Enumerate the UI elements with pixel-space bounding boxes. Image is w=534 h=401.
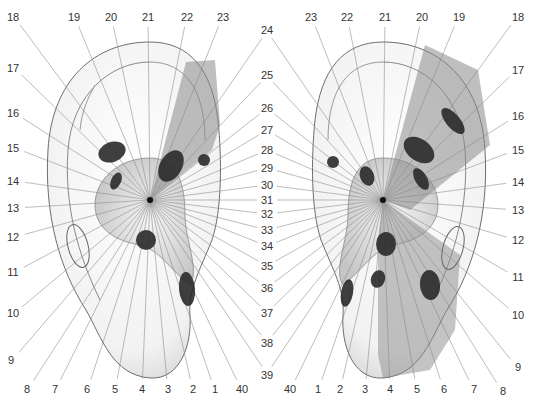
- right_ear-zone-label-1: 1: [315, 383, 321, 395]
- left_ear-zone-label-11: 11: [7, 266, 18, 278]
- right-acupoint-6: [376, 232, 396, 256]
- left_ear-zone-label-3: 3: [165, 383, 171, 395]
- left_ear-zone-label-15: 15: [7, 142, 19, 154]
- left_ear-zone-label-13: 13: [7, 202, 19, 214]
- left_ear-zone-label-7: 7: [52, 383, 58, 395]
- center-zone-label-32: 32: [261, 208, 273, 220]
- right_ear-zone-label-23: 23: [305, 11, 317, 23]
- right_ear-zone-label-12: 12: [512, 234, 524, 246]
- right_ear-zone-label-7: 7: [471, 383, 477, 395]
- right_ear-zone-label-17: 17: [512, 64, 524, 76]
- right-ear: [313, 42, 490, 378]
- left_ear-zone-label-21: 21: [142, 11, 154, 23]
- left-ear: [47, 42, 220, 378]
- left_ear-zone-label-22: 22: [181, 11, 193, 23]
- right_ear-zone-label-18: 18: [512, 11, 524, 23]
- left_ear-zone-label-19: 19: [68, 11, 80, 23]
- left_ear-zone-label-10: 10: [7, 307, 19, 319]
- center-zone-label-27: 27: [261, 124, 273, 136]
- left_ear-zone-label-23: 23: [217, 11, 229, 23]
- center-zone-label-36: 36: [261, 282, 273, 294]
- left_ear-zone-label-1: 1: [212, 383, 218, 395]
- right_ear-zone-label-11: 11: [512, 271, 523, 283]
- center-zone-label-25: 25: [261, 69, 273, 81]
- center-zone-label-29: 29: [261, 162, 273, 174]
- center-zone-label-31: 31: [261, 194, 273, 206]
- right_ear-zone-label-40: 40: [284, 383, 296, 395]
- right_ear-zone-label-20: 20: [416, 11, 428, 23]
- ear-zone-diagram: 1817161514131211109192021222387654321402…: [0, 0, 534, 401]
- right_ear-zone-label-13: 13: [512, 204, 524, 216]
- center-zone-label-30: 30: [261, 179, 273, 191]
- right_ear-zone-label-2: 2: [337, 383, 343, 395]
- left-acupoint-5: [136, 230, 156, 250]
- center-zone-label-39: 39: [261, 369, 273, 381]
- center-zone-label-26: 26: [261, 102, 273, 114]
- left_ear-zone-label-6: 6: [84, 383, 90, 395]
- left_ear-zone-label-40: 40: [236, 383, 248, 395]
- left-acupoint-4: [198, 154, 210, 166]
- right_ear-zone-label-6: 6: [441, 383, 447, 395]
- center-zone-label-38: 38: [261, 337, 273, 349]
- center-zone-label-37: 37: [261, 307, 273, 319]
- left_ear-zone-label-14: 14: [7, 175, 19, 187]
- right_ear-zone-label-14: 14: [512, 176, 524, 188]
- left_ear-zone-label-9: 9: [8, 354, 14, 366]
- right_ear-zone-label-22: 22: [341, 11, 353, 23]
- left_ear-zone-label-12: 12: [7, 231, 19, 243]
- left-center-point: [147, 197, 153, 203]
- center-zone-label-33: 33: [261, 224, 273, 236]
- right_ear-zone-label-15: 15: [512, 144, 524, 156]
- right_ear-zone-label-9: 9: [515, 361, 521, 373]
- left_ear-zone-label-17: 17: [7, 62, 19, 74]
- left_ear-zone-label-2: 2: [190, 383, 196, 395]
- right_ear-zone-label-21: 21: [379, 11, 391, 23]
- right_ear-zone-label-16: 16: [512, 110, 524, 122]
- right_ear-zone-label-10: 10: [512, 309, 524, 321]
- left_ear-zone-label-16: 16: [7, 107, 19, 119]
- left_ear-zone-label-8: 8: [24, 383, 30, 395]
- right_ear-zone-label-3: 3: [362, 383, 368, 395]
- center-zone-label-34: 34: [261, 240, 273, 252]
- right-acupoint-4: [327, 156, 339, 168]
- center-zone-label-35: 35: [261, 260, 273, 272]
- right_ear-zone-label-4: 4: [387, 383, 393, 395]
- right_ear-zone-label-8: 8: [500, 385, 506, 397]
- right_ear-zone-label-5: 5: [414, 383, 420, 395]
- right-center-point: [380, 197, 386, 203]
- center-zone-label-28: 28: [261, 144, 273, 156]
- left_ear-zone-label-20: 20: [105, 11, 117, 23]
- left_ear-zone-label-18: 18: [7, 11, 19, 23]
- right_ear-zone-label-19: 19: [453, 11, 465, 23]
- left_ear-zone-label-5: 5: [112, 383, 118, 395]
- left_ear-zone-label-4: 4: [139, 383, 145, 395]
- center-zone-label-24: 24: [261, 24, 273, 36]
